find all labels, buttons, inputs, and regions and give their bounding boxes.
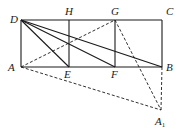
point-label-h: H bbox=[64, 5, 74, 17]
point-label-a1: A1 bbox=[154, 115, 166, 129]
point-label-subscript: 1 bbox=[162, 121, 166, 129]
point-label-e: E bbox=[63, 68, 71, 80]
point-label-d: D bbox=[9, 13, 18, 25]
dashed-segment-a-a1 bbox=[21, 67, 161, 110]
point-label-a: A bbox=[7, 61, 15, 73]
geometry-diagram: DHGCAEFBA1 bbox=[0, 0, 184, 135]
segments bbox=[21, 20, 162, 110]
point-label-f: F bbox=[110, 68, 118, 80]
point-label-g: G bbox=[111, 5, 119, 17]
dashed-segment-g-a1 bbox=[115, 20, 161, 110]
point-label-c: C bbox=[166, 5, 174, 17]
segment-d-b bbox=[21, 20, 162, 67]
segment-d-e bbox=[21, 20, 69, 67]
point-label-b: B bbox=[166, 61, 173, 73]
dashed-segment-b-a1 bbox=[161, 67, 162, 110]
